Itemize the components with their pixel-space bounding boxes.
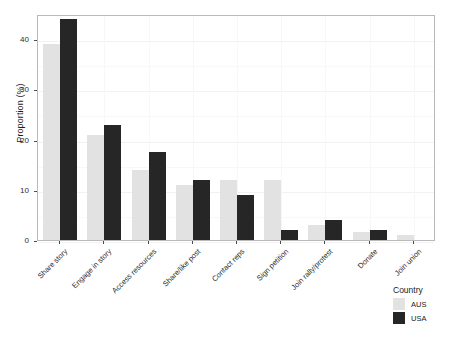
x-tick-mark xyxy=(413,241,414,244)
bar-usa-4 xyxy=(237,195,254,240)
y-tick-mark xyxy=(34,141,37,142)
bar-usa-3 xyxy=(193,180,210,240)
legend-item-aus[interactable]: AUS xyxy=(393,298,451,310)
y-tick-label: 40 xyxy=(7,35,29,44)
y-tick-mark xyxy=(34,40,37,41)
bar-usa-5 xyxy=(281,230,298,240)
plot-panel xyxy=(37,15,435,241)
bar-aus-7 xyxy=(353,232,370,240)
legend-swatch-usa xyxy=(393,312,405,324)
legend-title: Country xyxy=(393,285,451,295)
bar-usa-6 xyxy=(325,220,342,240)
y-tick-label: 0 xyxy=(7,236,29,245)
x-tick-mark xyxy=(236,241,237,244)
bar-usa-7 xyxy=(370,230,387,240)
legend-items: AUSUSA xyxy=(393,298,451,324)
x-tick-mark xyxy=(369,241,370,244)
bar-aus-0 xyxy=(43,44,60,240)
legend-swatch-aus xyxy=(393,298,405,310)
bar-aus-3 xyxy=(176,185,193,240)
bar-usa-0 xyxy=(60,19,77,240)
bar-usa-2 xyxy=(149,152,166,240)
bar-aus-8 xyxy=(397,235,414,240)
bars-layer xyxy=(38,16,434,240)
x-tick-mark xyxy=(280,241,281,244)
legend-item-usa[interactable]: USA xyxy=(393,312,451,324)
x-tick-mark xyxy=(192,241,193,244)
bar-chart: Proportion (%) 010203040 Share storyEnga… xyxy=(0,0,452,346)
x-tick-mark xyxy=(59,241,60,244)
x-tick-mark xyxy=(324,241,325,244)
legend-label-aus: AUS xyxy=(411,300,426,309)
y-tick-label: 10 xyxy=(7,186,29,195)
bar-usa-1 xyxy=(104,125,121,241)
y-tick-mark xyxy=(34,90,37,91)
bar-aus-2 xyxy=(132,170,149,240)
bar-aus-4 xyxy=(220,180,237,240)
y-tick-label: 20 xyxy=(7,136,29,145)
y-tick-label: 30 xyxy=(7,85,29,94)
legend: Country AUSUSA xyxy=(393,285,451,326)
legend-label-usa: USA xyxy=(411,314,426,323)
y-tick-mark xyxy=(34,191,37,192)
bar-aus-5 xyxy=(264,180,281,240)
bar-aus-1 xyxy=(87,135,104,240)
bar-aus-6 xyxy=(308,225,325,240)
y-tick-mark xyxy=(34,241,37,242)
y-axis-title: Proportion (%) xyxy=(15,53,25,173)
x-tick-mark xyxy=(103,241,104,244)
x-tick-mark xyxy=(148,241,149,244)
